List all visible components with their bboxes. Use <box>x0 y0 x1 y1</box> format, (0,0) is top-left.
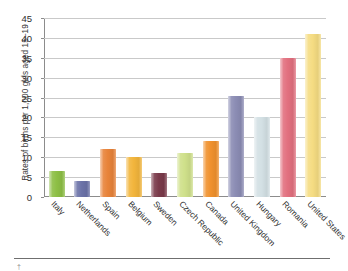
bar <box>203 141 219 197</box>
y-tick-label: 15 <box>0 132 32 143</box>
x-label-slot: Czech Republic <box>172 199 198 261</box>
y-tick-label: 0 <box>0 192 32 203</box>
bar-slot <box>121 18 147 197</box>
bar <box>228 96 244 197</box>
y-tick-label: 25 <box>0 92 32 103</box>
y-tick-label: 35 <box>0 52 32 63</box>
bars-layer <box>44 18 326 197</box>
y-tick-label: 45 <box>0 13 32 24</box>
bar <box>177 153 193 197</box>
y-tick-label: 40 <box>0 32 32 43</box>
footer-mark-icon: † <box>17 264 22 270</box>
x-label-slot: United States <box>300 199 326 261</box>
bar-slot <box>300 18 326 197</box>
x-axis-labels: ItalyNetherlandsSpainBelgiumSwedenCzech … <box>44 199 326 261</box>
y-tick-label: 20 <box>0 112 32 123</box>
footer-divider <box>14 258 330 259</box>
bar-slot <box>147 18 173 197</box>
y-tick-label: 30 <box>0 72 32 83</box>
y-tick-label: 5 <box>0 172 32 183</box>
x-label-slot: Sweden <box>147 199 173 261</box>
bar-slot <box>44 18 70 197</box>
x-label-slot: Hungary <box>249 199 275 261</box>
bar <box>151 173 167 197</box>
plot-area: 454035302520151050 <box>44 18 326 197</box>
x-tick-label: Italy <box>49 199 67 217</box>
x-label-slot: Romania <box>275 199 301 261</box>
x-label-slot: Spain <box>95 199 121 261</box>
bar-slot <box>249 18 275 197</box>
x-label-slot: Netherlands <box>70 199 96 261</box>
bar <box>305 34 321 197</box>
x-label-slot: Belgium <box>121 199 147 261</box>
bar-slot <box>172 18 198 197</box>
x-tick-label: Spain <box>100 199 122 221</box>
bar-slot <box>70 18 96 197</box>
bar <box>74 181 90 197</box>
bar-slot <box>95 18 121 197</box>
bar <box>49 171 65 197</box>
bar <box>254 117 270 197</box>
bar-slot <box>198 18 224 197</box>
bar <box>126 157 142 197</box>
bar <box>280 58 296 197</box>
y-tick-label: 10 <box>0 152 32 163</box>
x-tick-label: United States <box>305 199 348 242</box>
x-label-slot: Italy <box>44 199 70 261</box>
x-label-slot: Canada <box>198 199 224 261</box>
bar <box>100 149 116 197</box>
bar-slot <box>223 18 249 197</box>
y-tick-mark <box>41 197 44 198</box>
bar-slot <box>275 18 301 197</box>
x-label-slot: United Kingdom <box>223 199 249 261</box>
